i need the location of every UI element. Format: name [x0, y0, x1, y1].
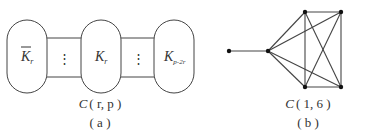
panel-label-a: ( a ) — [90, 115, 111, 130]
graph-edge — [268, 12, 305, 51]
node-pill-kp2r — [154, 20, 194, 93]
graph-vertex — [266, 49, 270, 53]
graph-vertex — [303, 10, 307, 14]
ellipsis-vertical-icon: ⋮ — [132, 51, 145, 66]
caption-b: C( 1, 6 ) — [285, 96, 330, 111]
ellipsis-vertical-icon: ⋮ — [58, 51, 71, 66]
panel-label-b: ( b ) — [297, 115, 319, 130]
caption-a: C( r, p ) — [79, 96, 122, 111]
graph-vertex — [339, 85, 343, 89]
figure-b-graph — [227, 10, 343, 89]
graph-vertex — [303, 85, 307, 89]
graph-vertex — [339, 10, 343, 14]
graph-edge — [268, 51, 305, 87]
graph-vertex — [227, 49, 231, 53]
diagram-canvas: Kr Kr Kp-2r ⋮ ⋮ C( r, p ) ( a ) C( 1, 6 … — [0, 0, 391, 138]
